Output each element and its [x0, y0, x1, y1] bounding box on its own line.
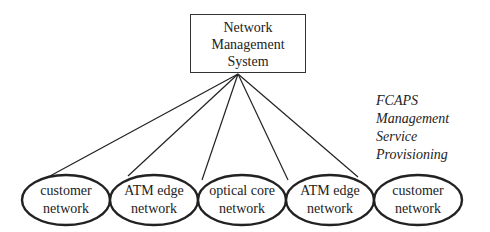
- node-label: customer: [22, 182, 110, 200]
- fcaps-caption: FCAPS Management Service Provisioning: [376, 92, 490, 164]
- node-label: network: [374, 200, 462, 218]
- connector-line: [238, 74, 358, 177]
- node-label: network: [22, 200, 110, 218]
- node-atm-edge-network-left: ATM edge network: [110, 182, 198, 218]
- node-atm-edge-network-right: ATM edge network: [286, 182, 374, 218]
- caption-line2: Service Provisioning: [376, 128, 490, 164]
- network-management-system-box: Network Management System: [190, 14, 306, 73]
- connector-lines: [50, 74, 358, 180]
- node-label: ATM edge: [286, 182, 374, 200]
- node-label: optical core: [198, 182, 286, 200]
- node-customer-network-right: customer network: [374, 182, 462, 218]
- node-label: network: [198, 200, 286, 218]
- node-label: ATM edge: [110, 182, 198, 200]
- node-customer-network-left: customer network: [22, 182, 110, 218]
- node-optical-core-network: optical core network: [198, 182, 286, 218]
- nms-label-line2: Management: [191, 36, 305, 53]
- node-label: customer: [374, 182, 462, 200]
- node-label: network: [110, 200, 198, 218]
- node-label: network: [286, 200, 374, 218]
- nms-label-line3: System: [191, 53, 305, 70]
- nms-label-line1: Network: [191, 19, 305, 36]
- connector-line: [238, 74, 288, 180]
- caption-line1: FCAPS Management: [376, 92, 490, 128]
